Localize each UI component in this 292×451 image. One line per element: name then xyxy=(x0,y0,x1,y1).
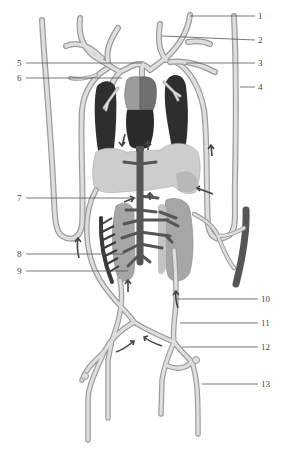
label-7: 7 xyxy=(17,193,22,203)
label-5: 5 xyxy=(17,58,22,68)
right-atrium xyxy=(140,77,156,110)
label-8: 8 xyxy=(17,249,22,259)
heart xyxy=(125,77,157,154)
label-13: 13 xyxy=(261,379,270,389)
limb-vessel xyxy=(194,210,246,284)
label-6: 6 xyxy=(17,73,22,83)
label-4: 4 xyxy=(258,82,263,92)
label-1: 1 xyxy=(258,11,263,21)
liver xyxy=(93,143,200,193)
circulatory-diagram xyxy=(0,0,292,451)
label-12: 12 xyxy=(261,342,270,352)
label-3: 3 xyxy=(258,58,263,68)
label-2: 2 xyxy=(258,35,263,45)
label-10: 10 xyxy=(261,294,270,304)
label-9: 9 xyxy=(17,266,22,276)
label-11: 11 xyxy=(261,318,270,328)
left-atrium xyxy=(125,77,140,110)
